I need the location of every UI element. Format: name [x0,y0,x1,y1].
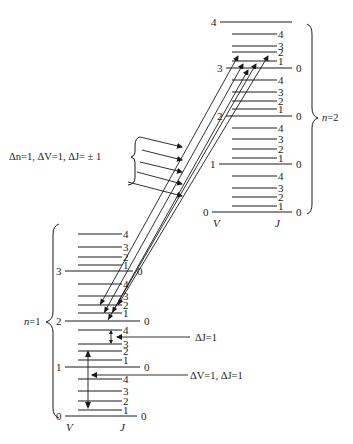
rotational-level-label: 3 [278,40,284,52]
j-axis-label: J [275,217,281,229]
vibrational-level-label: 4 [211,16,217,28]
transition-group-label: Δn=1, ΔV=1, ΔJ= ± 1 [9,151,101,162]
transition-arrowhead-down [108,314,113,320]
rotational-zero-label: 0 [296,62,302,74]
vibrational-level-label: 1 [56,361,62,373]
transition-group-brace [128,137,140,185]
rotational-zero-label: 0 [144,315,150,327]
lower-state-label: n=1 [24,316,40,327]
rotational-zero-label: 0 [296,110,302,122]
rotational-zero-label: 0 [296,158,302,170]
energy-level-diagram: 0010203041234123412341234VJ 001020301234… [0,0,353,444]
rotational-level-label: 4 [278,122,284,134]
rotational-level-label: 3 [123,338,129,350]
rotational-level-label: 4 [278,170,284,182]
lower-state: 001020301234123412341234VJ [56,228,150,433]
rotational-level-label: 3 [123,385,129,397]
delta-v-delta-j-label: ΔV=1, ΔJ=1 [190,370,243,381]
rotational-level-label: 3 [278,86,284,98]
v-axis-label: V [66,421,74,433]
rotational-zero-label: 0 [296,206,302,218]
rotational-level-label: 4 [123,228,129,240]
vibrational-level-label: 3 [217,62,223,74]
rotational-level-label: 3 [123,241,129,253]
rotational-level-label: 4 [123,324,129,336]
rotational-level-label: 3 [278,182,284,194]
upper-state: 0010203041234123412341234VJ [203,16,302,229]
rotational-level-label: 4 [278,28,284,40]
vibrational-level-label: 1 [210,158,216,170]
rotational-level-label: 4 [278,74,284,86]
rotational-zero-label: 0 [141,410,147,422]
upper-state-brace [307,24,318,214]
transition-arrow [104,64,243,313]
vibrational-level-label: 2 [56,315,62,327]
vibrational-level-label: 3 [56,265,62,277]
upper-state-label: n=2 [322,112,338,123]
diagram-canvas: 0010203041234123412341234VJ 001020301234… [0,0,353,444]
vibrational-level-label: 0 [56,410,62,422]
v-axis-label: V [213,217,221,229]
rotational-zero-label: 0 [144,361,150,373]
j-axis-label: J [120,421,126,433]
rotational-level-label: 3 [278,133,284,145]
transition-arrow [118,56,268,305]
vibrational-level-label: 0 [203,206,209,218]
delta-j-label: ΔJ=1 [195,332,217,343]
